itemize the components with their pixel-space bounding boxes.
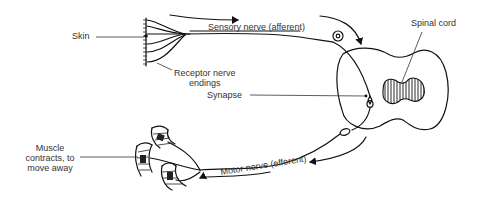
motor-return-arrow xyxy=(200,177,202,178)
dorsal-root-ganglion xyxy=(333,31,343,41)
grey-matter xyxy=(383,78,424,104)
receptor-leader xyxy=(157,63,172,70)
receptor-label-line2: endings xyxy=(174,78,236,88)
receptor-label-line1: Receptor nerve xyxy=(174,68,236,78)
muscle-label-line1: Muscle xyxy=(20,143,80,153)
skin-label: Skin xyxy=(72,31,90,41)
motor-nerve-bulge xyxy=(339,127,350,136)
muscle-label-line3: move away xyxy=(20,163,80,173)
muscle-label-line2: contracts, to xyxy=(20,153,80,163)
muscle-contracts-label: Muscle contracts, to move away xyxy=(20,143,80,173)
motor-fiber-in-cord xyxy=(352,108,370,130)
synapse xyxy=(367,96,373,107)
sensory-nerve xyxy=(185,33,333,42)
receptor-nerve-endings-label: Receptor nerve endings xyxy=(174,68,236,88)
skin-receptor xyxy=(143,18,190,66)
muscle xyxy=(136,126,200,190)
synapse-label: Synapse xyxy=(207,90,242,100)
sensory-nerve-label: Sensory nerve (afferent) xyxy=(208,22,305,32)
synapse-leader xyxy=(250,95,367,98)
spinal-cord-label: Spinal cord xyxy=(411,18,456,28)
sensory-flow-arrow xyxy=(170,15,238,20)
